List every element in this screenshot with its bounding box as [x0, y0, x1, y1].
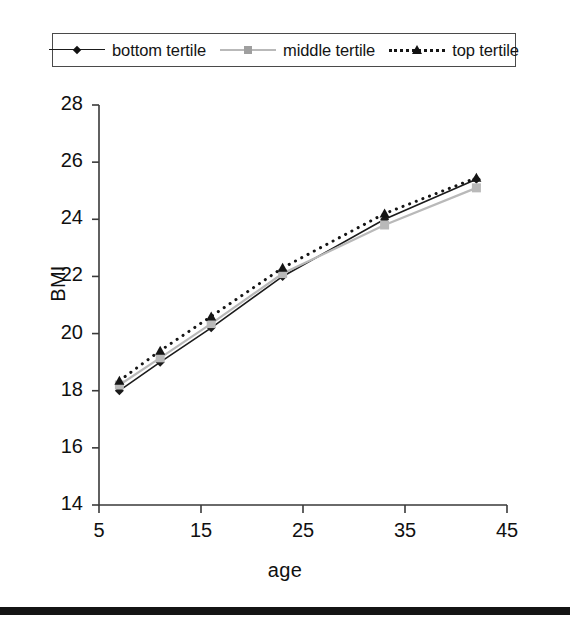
data-point-marker: [155, 346, 165, 355]
series-line: [119, 188, 476, 385]
chart-figure: bottom tertile middle tertile top tertil…: [0, 0, 570, 621]
page-edge-artifact: [0, 607, 570, 615]
data-point-marker: [278, 263, 288, 272]
data-point-marker: [206, 311, 216, 320]
data-point-marker: [471, 173, 481, 182]
data-point-marker: [472, 183, 481, 192]
series-line: [119, 179, 476, 390]
series-middle-tertile: [115, 183, 481, 389]
axis-lines: [99, 105, 507, 505]
plot-canvas: [0, 0, 570, 621]
data-series-layer: [114, 173, 481, 395]
data-point-marker: [380, 209, 390, 218]
data-point-marker: [114, 376, 124, 385]
data-point-marker: [380, 221, 389, 230]
axis-tick-marks: [92, 105, 507, 513]
